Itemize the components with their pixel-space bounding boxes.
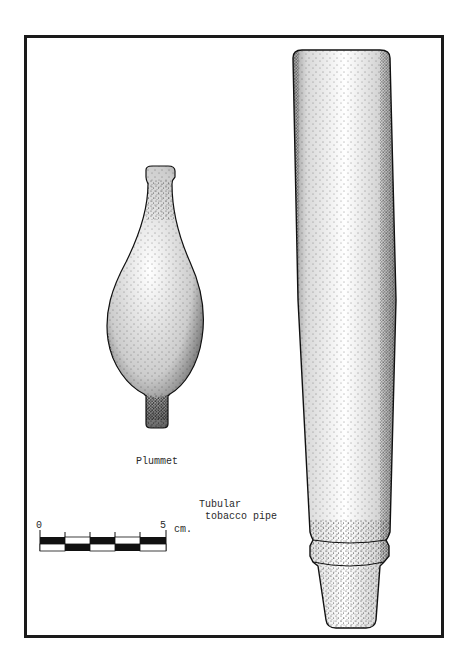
scale-end-label: 5 (160, 520, 166, 531)
scale-unit-label: cm. (174, 524, 192, 535)
plummet-label: Plummet (136, 456, 178, 467)
pipe-label-line1: Tubular (199, 499, 241, 510)
artifact-illustrations (0, 0, 470, 667)
scale-bar (40, 530, 166, 551)
plummet-illustration (100, 160, 210, 435)
pipe-label-line2: tobacco pipe (205, 511, 277, 522)
scale-start-label: 0 (36, 520, 42, 531)
tobacco-pipe-illustration (285, 45, 405, 635)
